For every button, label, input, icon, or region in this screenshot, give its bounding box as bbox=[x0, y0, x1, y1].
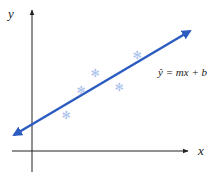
regression-equation: ŷ = mx + b bbox=[157, 66, 208, 78]
data-point: ✻ bbox=[114, 81, 123, 94]
y-axis-label: y bbox=[6, 6, 14, 21]
regression-line bbox=[14, 31, 190, 135]
data-point: ✻ bbox=[132, 49, 141, 62]
data-point: ✻ bbox=[61, 109, 70, 122]
data-point: ✻ bbox=[76, 84, 85, 97]
data-point: ✻ bbox=[90, 67, 99, 80]
regression-diagram: y x ✻✻✻✻✻ ŷ = mx + b bbox=[0, 0, 213, 178]
data-points: ✻✻✻✻✻ bbox=[61, 49, 141, 122]
x-axis-label: x bbox=[197, 143, 204, 158]
